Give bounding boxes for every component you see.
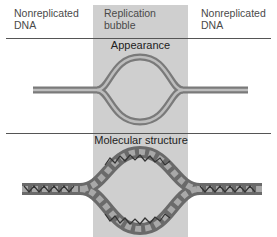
- molecular-dna-helix: [22, 152, 262, 229]
- appearance-dna-tube: [33, 57, 248, 122]
- section-title-molecular: Molecular structure: [86, 134, 196, 146]
- dna-diagram: [0, 0, 277, 237]
